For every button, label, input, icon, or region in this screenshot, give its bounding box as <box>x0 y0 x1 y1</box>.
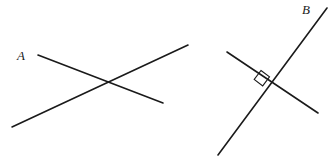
geometry-figure-svg <box>0 0 335 163</box>
line-a-descending <box>38 55 163 103</box>
line-b-steep-ascending <box>218 8 327 155</box>
figure-a-label: A <box>17 49 25 62</box>
line-a-ascending <box>12 45 188 127</box>
figure-b-group <box>218 8 327 155</box>
figure-b-label: B <box>302 3 310 16</box>
geometry-figure-canvas: A B <box>0 0 335 163</box>
figure-a-group <box>12 45 188 127</box>
